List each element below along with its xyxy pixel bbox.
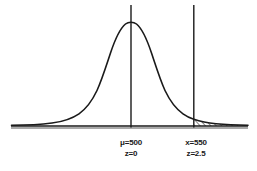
mean-marker-label: μ=500 z=0 xyxy=(101,137,161,159)
cutoff-marker-label: x=550 z=2.5 xyxy=(166,137,226,159)
mean-value-label: μ=500 xyxy=(101,137,161,148)
bell-curve xyxy=(12,22,249,125)
baseline-axis xyxy=(11,126,248,128)
mean-z-label: z=0 xyxy=(101,148,161,159)
cutoff-z-label: z=2.5 xyxy=(166,148,226,159)
cutoff-value-label: x=550 xyxy=(166,137,226,148)
